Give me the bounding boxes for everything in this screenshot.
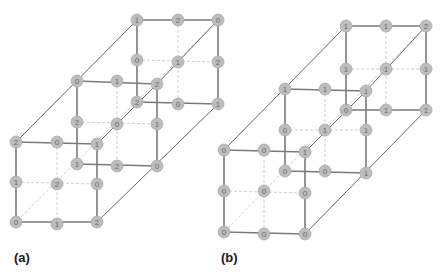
lattice-node: 2 xyxy=(71,116,83,128)
lattice-node: 0 xyxy=(10,216,22,228)
lattice-node: 1 xyxy=(420,63,432,75)
lattice-node: 2 xyxy=(131,96,143,108)
node-value: 1 xyxy=(384,65,389,74)
node-value: 1 xyxy=(115,77,120,86)
node-value: 0 xyxy=(303,230,308,239)
lattice-node: 0 xyxy=(279,165,291,177)
node-value: 2 xyxy=(75,118,80,127)
node-value: 0 xyxy=(323,167,328,176)
node-value: 1 xyxy=(323,85,328,94)
node-value: 0 xyxy=(222,146,227,155)
node-value: 0 xyxy=(14,218,19,227)
lattice-node: 0 xyxy=(319,165,331,177)
lattice-node: 1 xyxy=(51,218,63,230)
node-value: 1 xyxy=(135,16,140,25)
lattice-node: 0 xyxy=(111,118,123,130)
node-value: 1 xyxy=(344,65,349,74)
node-value: 1 xyxy=(155,120,160,129)
node-value: 0 xyxy=(176,100,181,109)
lattice-node: 1 xyxy=(71,158,83,170)
lattice-node: 2 xyxy=(91,216,103,228)
node-value: 0 xyxy=(75,77,80,86)
lattice-node: 2 xyxy=(10,136,22,148)
lattice-node: 1 xyxy=(340,63,352,75)
node-value: 1 xyxy=(364,169,369,178)
lattice-node: 0 xyxy=(51,136,63,148)
node-value: 0 xyxy=(262,230,267,239)
node-value: 2 xyxy=(176,16,181,25)
prism-edge xyxy=(305,91,366,152)
lattice-node: 0 xyxy=(218,144,230,156)
lattice-node: 1 xyxy=(299,146,311,158)
node-value: 0 xyxy=(283,126,288,135)
node-value: 0 xyxy=(222,187,227,196)
node-value: 0 xyxy=(155,162,160,171)
node-value: 1 xyxy=(303,148,308,157)
lattice-node: 0 xyxy=(340,104,352,116)
lattice-node: 0 xyxy=(212,14,224,26)
lattice-node: 1 xyxy=(91,138,103,150)
node-value: 1 xyxy=(424,106,429,115)
lattice-node: 0 xyxy=(258,185,270,197)
lattice-node: 1 xyxy=(420,104,432,116)
lattice-node: 1 xyxy=(151,118,163,130)
lattice-node: 0 xyxy=(258,144,270,156)
lattice-node: 0 xyxy=(131,54,143,66)
lattice-node: 1 xyxy=(279,83,291,95)
prism-edge xyxy=(97,84,157,144)
node-value: 0 xyxy=(216,16,221,25)
node-value: 1 xyxy=(424,65,429,74)
node-value: 2 xyxy=(55,180,60,189)
lattice-node: 1 xyxy=(360,85,372,97)
lattice-node: 2 xyxy=(151,78,163,90)
lattice-node: 0 xyxy=(71,75,83,87)
lattice-node: 1 xyxy=(380,104,392,116)
node-value: 0 xyxy=(262,146,267,155)
node-value: 0 xyxy=(222,228,227,237)
node-value: 1 xyxy=(95,140,100,149)
node-value: 1 xyxy=(176,58,181,67)
lattice-node: 2 xyxy=(51,178,63,190)
node-value: 1 xyxy=(364,87,369,96)
lattice-node: 2 xyxy=(212,56,224,68)
node-value: 0 xyxy=(262,187,267,196)
panel-label-a: (a) xyxy=(14,250,30,265)
node-value: 1 xyxy=(14,178,19,187)
node-value: 1 xyxy=(55,220,60,229)
node-value: 2 xyxy=(95,218,100,227)
lattice-node: 0 xyxy=(172,98,184,110)
node-value: 2 xyxy=(115,162,120,171)
lattice-node: 0 xyxy=(258,228,270,240)
lattice-node: 0 xyxy=(279,124,291,136)
prism-edge xyxy=(366,26,426,91)
node-value: 0 xyxy=(55,138,60,147)
lattice-node: 1 xyxy=(360,167,372,179)
node-value: 1 xyxy=(384,106,389,115)
node-value: 1 xyxy=(384,22,389,31)
lattice-node: 2 xyxy=(172,14,184,26)
lattice-node: 0 xyxy=(299,228,311,240)
node-value: 2 xyxy=(216,58,221,67)
node-value: 0 xyxy=(303,189,308,198)
lattice-node: 1 xyxy=(340,20,352,32)
node-value: 1 xyxy=(364,126,369,135)
lattice-node: 1 xyxy=(10,176,22,188)
lattice-node: 1 xyxy=(172,56,184,68)
node-value: 0 xyxy=(283,167,288,176)
panel-label-b: (b) xyxy=(221,250,238,265)
node-value: 0 xyxy=(95,180,100,189)
node-value: 2 xyxy=(135,98,140,107)
node-value: 0 xyxy=(115,120,120,129)
node-value: 1 xyxy=(283,85,288,94)
lattice-node: 1 xyxy=(380,63,392,75)
lattice-node: 0 xyxy=(151,160,163,172)
node-value: 1 xyxy=(323,126,328,135)
lattice-node: 1 xyxy=(380,20,392,32)
lattice-node: 0 xyxy=(218,185,230,197)
lattice-node: 1 xyxy=(212,98,224,110)
node-layer: 1200122010122011202011200121121110111110… xyxy=(10,14,432,240)
node-value: 2 xyxy=(155,80,160,89)
node-value: 1 xyxy=(216,100,221,109)
lattice-node: 1 xyxy=(111,75,123,87)
lattice-node: 1 xyxy=(131,14,143,26)
